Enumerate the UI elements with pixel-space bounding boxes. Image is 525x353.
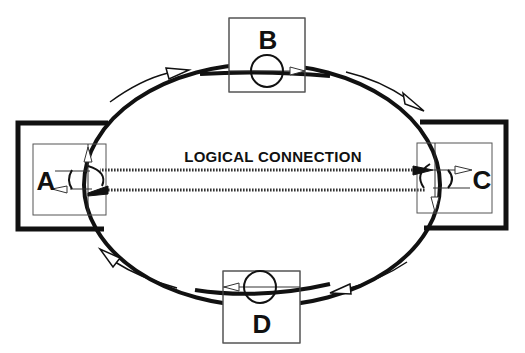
node-a[interactable]: A: [33, 144, 108, 215]
node-a-label: A: [37, 166, 56, 196]
arrow-left-icon: [330, 284, 351, 294]
arrow-head-icon: [88, 186, 108, 196]
ring-path: [84, 64, 440, 306]
arrow-head-icon: [413, 166, 433, 175]
arrow-down-right-icon: [403, 93, 424, 111]
node-c[interactable]: C: [413, 143, 492, 213]
station-a-frame: [18, 123, 108, 229]
station-c-frame: [420, 122, 506, 228]
node-c-label: C: [473, 165, 492, 195]
node-d[interactable]: D: [195, 271, 330, 343]
logical-connection-label: LOGICAL CONNECTION: [184, 148, 362, 165]
node-d-label: D: [253, 309, 272, 339]
flow-arrow-top-right: [346, 72, 424, 111]
flow-arrow-top-left: [110, 68, 189, 102]
node-b[interactable]: B: [200, 18, 330, 92]
token-ring-logical-connection-diagram: LOGICAL CONNECTION B D A: [0, 0, 525, 353]
node-b-label: B: [259, 25, 278, 55]
flow-arrow-bottom-left: [100, 249, 177, 288]
arrow-right-icon: [455, 166, 472, 174]
arrow-up-left-icon: [100, 249, 120, 267]
logical-connection-lines: [100, 169, 426, 192]
